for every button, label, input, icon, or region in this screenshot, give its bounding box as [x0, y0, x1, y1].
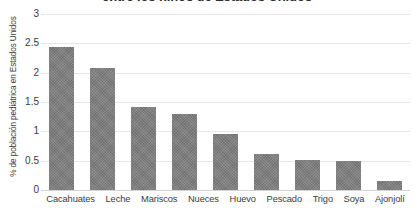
x-axis-tick-label: Soya [344, 193, 365, 205]
y-axis-tick-label: 2.5 [12, 38, 39, 48]
x-axis-tick-label: Cacahuates [46, 193, 95, 205]
x-axis-tick-label: Trigo [313, 193, 333, 205]
bar [131, 107, 156, 190]
bar [213, 134, 238, 190]
gridline [41, 190, 410, 191]
x-axis-tick-label: Mariscos [141, 193, 177, 205]
chart-title: entre los niños de Estados Unidos [0, 0, 414, 5]
plot-area [41, 14, 410, 190]
x-axis-tick-label: Pescado [267, 193, 302, 205]
x-axis-tick-labels: CacahuatesLecheMariscosNuecesHuevoPescad… [41, 193, 410, 213]
bar [377, 181, 402, 190]
bar [49, 47, 74, 190]
bar-chart-figure: entre los niños de Estados Unidos % de p… [0, 0, 414, 217]
y-axis-tick-label: 2 [12, 68, 39, 78]
x-axis-tick-label: Leche [106, 193, 131, 205]
bar [172, 114, 197, 190]
bar [254, 154, 279, 190]
bar-series [41, 14, 410, 190]
y-axis-tick-label: 3 [12, 9, 39, 19]
y-axis-tick-label: 1 [12, 126, 39, 136]
x-axis-tick-label: Nueces [188, 193, 219, 205]
x-axis-tick-label: Huevo [230, 193, 256, 205]
bar [90, 68, 115, 190]
bar [295, 160, 320, 190]
y-axis-tick-label: 1.5 [12, 97, 39, 107]
y-axis-tick-label: 0 [12, 185, 39, 195]
x-axis-tick-label: Ajonjolí [375, 193, 405, 205]
y-axis-tick-label: 0.5 [12, 156, 39, 166]
bar [336, 161, 361, 190]
y-axis-tick-labels: 00.511.522.53 [12, 0, 39, 217]
